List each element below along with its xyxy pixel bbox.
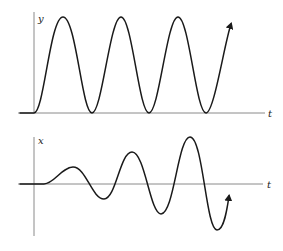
top-y-axis-label: y xyxy=(37,13,44,24)
bottom-t-axis-label: t xyxy=(267,179,272,190)
top-t-axis-label: t xyxy=(268,108,273,119)
top-oscillation-curve xyxy=(20,17,231,113)
bottom-plot: x t xyxy=(18,135,272,236)
diagram-canvas: y t x t xyxy=(0,0,283,251)
bottom-x-axis-label: x xyxy=(38,135,44,146)
top-plot: y t xyxy=(18,12,273,119)
